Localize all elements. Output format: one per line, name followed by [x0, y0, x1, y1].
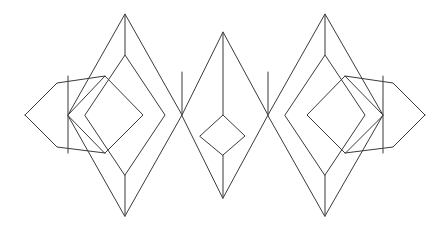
- diamond-lattice-figure: [0, 0, 446, 229]
- diagram-canvas: [0, 0, 446, 229]
